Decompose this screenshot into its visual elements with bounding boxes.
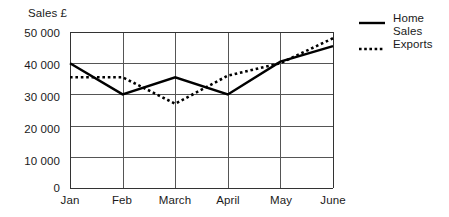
chart-legend: Home Sales Exports [358, 12, 448, 58]
legend-label: Exports [393, 38, 433, 51]
sales-line-chart: Sales £ 50 000 40 000 30 000 20 000 10 0… [0, 0, 449, 217]
legend-entry-exports: Exports [358, 38, 448, 58]
dotted-line-swatch [358, 44, 386, 54]
legend-entry-home-sales: Home Sales [358, 12, 448, 40]
legend-label: Home Sales [393, 12, 424, 38]
solid-line-swatch [358, 18, 386, 28]
x-tick-label: June [301, 194, 365, 207]
